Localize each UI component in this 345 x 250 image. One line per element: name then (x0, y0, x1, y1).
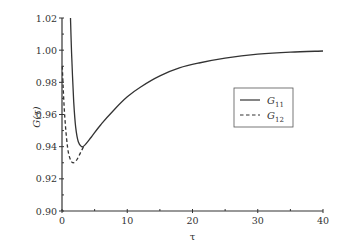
y-tick-label: 1.00 (36, 45, 57, 56)
x-tick-label: 30 (252, 215, 264, 226)
legend-box (234, 88, 293, 127)
y-tick-label: 0.98 (36, 77, 57, 88)
legend: G11G12 (234, 88, 293, 127)
y-axis-label: G(τ) (31, 106, 42, 127)
x-axis-label: τ (190, 231, 196, 242)
y-tick-label: 0.92 (36, 173, 57, 184)
y-tick-label: 0.94 (36, 141, 57, 152)
y-tick-label: 0.90 (36, 206, 57, 217)
x-tick-label: 20 (186, 215, 198, 226)
x-tick-label: 40 (317, 215, 329, 226)
x-tick-label: 10 (121, 215, 133, 226)
y-tick-label: 1.02 (36, 13, 57, 24)
x-tick-label: 0 (59, 215, 65, 226)
series-g11-line (71, 18, 324, 147)
chart-canvas: 0.900.920.940.960.981.001.02010203040 G1… (0, 0, 345, 250)
